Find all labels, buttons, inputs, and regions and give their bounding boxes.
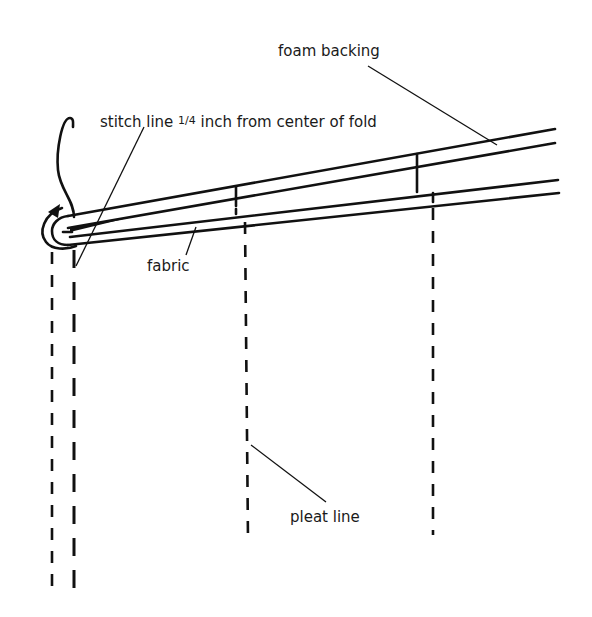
stitch-line-text-pre: stitch line — [100, 113, 178, 131]
pleat-lines — [245, 208, 433, 540]
stitch-lines — [52, 250, 74, 592]
stitch-line-leader — [76, 127, 144, 266]
pleat-line-leader — [251, 445, 326, 502]
foam-backing-leader — [368, 66, 497, 145]
label-fabric: fabric — [147, 257, 190, 275]
label-pleat-line: pleat line — [290, 508, 360, 526]
label-foam-backing: foam backing — [278, 42, 380, 60]
fabric-layer — [68, 180, 559, 245]
stitch-line-text-post: inch from center of fold — [196, 113, 377, 131]
label-stitch-line: stitch line 1/4 inch from center of fold — [100, 113, 377, 131]
foam-backing-layer — [68, 129, 555, 228]
stitch-line-fraction: 1/4 — [178, 114, 196, 127]
pleat-diagram: foam backing stitch line 1/4 inch from c… — [0, 0, 592, 617]
